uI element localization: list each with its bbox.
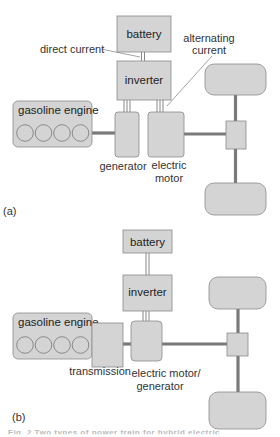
cylinder-icon [17, 125, 34, 142]
panel-b-parallel-hybrid: battery inverter gasoline engine transmi… [12, 230, 266, 429]
battery-label-b: battery [130, 236, 165, 248]
generator-label-a: generator [99, 160, 146, 172]
inverter-label-b: inverter [128, 286, 167, 298]
differential-box-a [226, 121, 246, 149]
ac-connector-motor-a [157, 99, 163, 113]
alternating-current-label-line1: alternating [183, 32, 234, 44]
gasoline-engine-label-a: gasoline engine [18, 104, 99, 116]
differential-box-b [227, 333, 248, 356]
motor-generator-label-line1-b: electric motor/ [131, 367, 201, 379]
cylinder-icon [72, 337, 89, 354]
cylinder-icon [54, 125, 71, 142]
electric-motor-label-line2-a: motor [155, 172, 183, 184]
wheel-rear-b [209, 392, 266, 429]
motor-generator-label-line2-b: generator [136, 380, 183, 392]
panel-b-tag: (b) [12, 411, 25, 423]
dc-connector-a [142, 51, 145, 62]
inverter-label-a: inverter [125, 74, 164, 86]
electric-motor-box-a [148, 112, 184, 157]
alternating-current-label-line2: current [192, 44, 226, 56]
panel-a-series-hybrid: battery inverter direct current alternat… [3, 16, 266, 217]
gasoline-engine-b: gasoline engine [13, 313, 99, 359]
gasoline-engine-label-b: gasoline engine [18, 316, 99, 328]
generator-box-a [115, 112, 139, 157]
cylinder-icon [17, 337, 34, 354]
cylinder-icon [35, 337, 52, 354]
cylinder-icon [54, 337, 71, 354]
cylinder-icon [35, 125, 52, 142]
motor-generator-box-b [131, 321, 162, 361]
wheel-front-b [209, 277, 266, 309]
dc-connector-b [146, 252, 149, 276]
transmission-label-b: transmission [69, 365, 131, 377]
gasoline-engine-a: gasoline engine [13, 101, 99, 147]
ac-connector-b [143, 310, 149, 322]
cylinder-icon [72, 125, 89, 142]
direct-current-label: direct current [40, 43, 104, 55]
transmission-box-b [92, 323, 123, 367]
hybrid-powertrain-diagram: battery inverter direct current alternat… [0, 0, 280, 437]
wheel-rear-a [205, 183, 266, 215]
ac-connector-generator-a [124, 99, 130, 113]
wheel-front-a [205, 64, 266, 95]
battery-label-a: battery [126, 28, 161, 40]
panel-a-tag: (a) [3, 205, 16, 217]
electric-motor-label-line1-a: electric [152, 159, 187, 171]
